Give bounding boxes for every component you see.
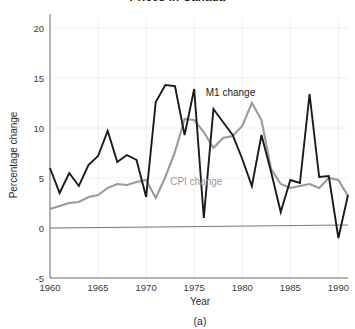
series-line-m1-change [50, 85, 348, 238]
y-tick-label: 0 [39, 223, 44, 234]
data-series [50, 85, 348, 238]
x-axis-tick-labels: 1960196519701975198019851990 [39, 282, 349, 293]
x-tick-label: 1990 [328, 282, 349, 293]
figure-caption: (a) [194, 315, 207, 327]
x-tick-label: 1985 [280, 282, 301, 293]
y-tick-label: 20 [33, 23, 44, 34]
chart-figure: Prices in Canada -505101520 196019651970… [0, 0, 355, 329]
x-axis-title: Year [190, 296, 211, 307]
x-tick-label: 1975 [184, 282, 205, 293]
x-tick-label: 1965 [87, 282, 108, 293]
x-tick-label: 1970 [136, 282, 157, 293]
y-axis-tick-labels: -505101520 [33, 23, 44, 284]
x-tick-label: 1960 [39, 282, 60, 293]
series-label-m1-change: M1 change [206, 87, 256, 98]
x-tick-label: 1980 [232, 282, 253, 293]
y-tick-label: 15 [33, 73, 44, 84]
y-tick-label: 10 [33, 123, 44, 134]
line-chart-plot: -505101520 1960196519701975198019851990 … [0, 0, 355, 329]
series-label-cpi-change: CPI change [170, 176, 223, 187]
y-axis-title: Percentage change [8, 111, 19, 198]
series-annotations: M1 changeCPI change [170, 87, 255, 187]
y-tick-label: 5 [39, 173, 44, 184]
